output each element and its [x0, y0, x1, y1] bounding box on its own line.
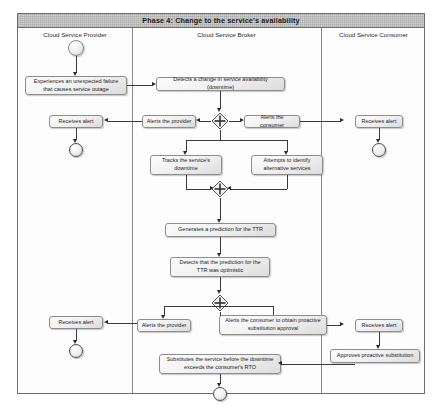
activity-final-node-provider-2 [69, 344, 83, 358]
swimlane-title-broker: Cloud Service Broker [132, 31, 321, 38]
activity-consumer-receives-alert-2[interactable]: Receives alert [355, 319, 403, 332]
flow-join-in-left [186, 189, 211, 190]
activity-final-node-consumer [372, 143, 386, 157]
initial-node [68, 40, 84, 56]
flow-alerts-consumer-to-receives-1 [300, 121, 341, 122]
flow-prediction-to-detects-optimistic [220, 237, 221, 254]
flow-detects-optimistic-to-fork2 [220, 277, 221, 291]
flow-approves-to-substitutes [281, 364, 355, 365]
flow-detects-to-fork1 [220, 91, 221, 109]
arrowhead-left [104, 320, 108, 324]
activity-consumer-receives-alert-1[interactable]: Receives alert [355, 115, 403, 128]
flow-initial-to-failure [76, 56, 77, 73]
activity-provider-receives-alert-1[interactable]: Receives alert [49, 115, 103, 128]
arrowhead-left [278, 361, 282, 365]
activity-detects-optimistic[interactable]: Detects that the prediction for the TTR … [170, 257, 270, 277]
flow-alerts-provider2-to-receives [108, 323, 137, 324]
fork-node-2 [211, 294, 229, 312]
activity-experiences-failure[interactable]: Experiences an unexpected failure that c… [25, 76, 127, 95]
activity-final-node-broker [213, 387, 227, 401]
phase-banner: Phase 4: Change to the service's availab… [18, 14, 424, 28]
activity-detects-change[interactable]: Detects a change in service availability… [156, 77, 285, 91]
swimlane-title-provider: Cloud Service Provider [18, 31, 132, 38]
arrowhead-right [340, 322, 344, 326]
flow-tracks-to-join [186, 175, 187, 189]
activity-final-node-provider-1 [69, 143, 83, 157]
flow-alternatives-to-join [287, 175, 288, 189]
activity-provider-receives-alert-2[interactable]: Receives alert [49, 316, 103, 329]
swimlane-divider-broker-consumer [321, 28, 322, 393]
arrowhead-right [340, 118, 344, 122]
flow-alerts-provider-to-receives-1 [108, 121, 142, 122]
flow-fork1-to-alerts-provider [199, 121, 211, 122]
activity-substitutes-service[interactable]: Substitutes the service before the downt… [159, 354, 281, 374]
flow-failure-to-detects [127, 85, 153, 86]
swimlane-divider-provider-broker [132, 28, 133, 393]
flow-split-bar [186, 140, 288, 141]
activity-tracks-downtime[interactable]: Tracks the service's downtime [150, 155, 222, 175]
activity-alerts-consumer-1[interactable]: Alerts the consumer [244, 115, 300, 128]
swimlane-title-consumer: Cloud Service Consumer [321, 31, 426, 38]
flow-alerts-consumer2-to-receives [327, 325, 341, 326]
activity-generates-prediction[interactable]: Generates a prediction for the TTR [165, 223, 276, 237]
flow-fork2-bar [164, 306, 273, 307]
activity-diagram-frame: Phase 4: Change to the service's availab… [17, 13, 425, 394]
flow-join-in-right [230, 189, 287, 190]
flow-consumer-alert2-to-approves [379, 332, 380, 346]
activity-identify-alternatives[interactable]: Attempts to identify alternative service… [251, 155, 323, 175]
flow-fork1-down [220, 130, 221, 140]
arrowhead-left [104, 118, 108, 122]
fork-node-1 [211, 112, 229, 130]
activity-approves-substitution[interactable]: Approves proactive substitution [330, 349, 420, 363]
flow-join1-to-prediction [220, 198, 221, 220]
join-node-1 [211, 180, 229, 198]
activity-alerts-consumer-2[interactable]: Alerts the consumer to obtain proactive … [219, 315, 327, 335]
activity-alerts-provider-2[interactable]: Alerts the provider [137, 319, 191, 332]
activity-alerts-provider-1[interactable]: Alerts the provider [142, 115, 196, 128]
arrowhead-left [196, 118, 200, 122]
